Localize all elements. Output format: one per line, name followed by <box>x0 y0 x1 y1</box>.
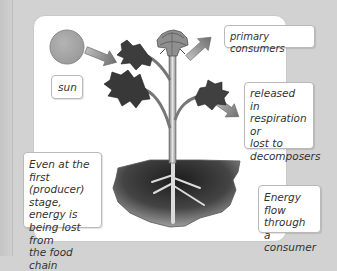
sun-label: sun <box>51 75 83 99</box>
even-line-1: Even at the first <box>29 158 96 183</box>
producer-energy-loss-label: Even at the first (producer) stage, ener… <box>23 152 102 228</box>
leaf-upper-left <box>117 40 152 70</box>
plant-stem <box>169 55 176 163</box>
arrow-sun-to-plant <box>83 43 120 70</box>
even-line-4: being lost from <box>29 221 96 246</box>
sun-icon <box>50 30 84 64</box>
released-line-3: lost to <box>250 137 308 150</box>
sun-label-text: sun <box>58 81 77 93</box>
released-line-2: respiration or <box>250 112 308 137</box>
even-line-3: stage, energy is <box>29 196 96 221</box>
arrow-to-primary-consumers <box>183 31 217 64</box>
leaf-lower-left <box>104 70 150 108</box>
primary-consumers-text: primary consumers <box>230 31 285 54</box>
even-line-5: the food chain <box>29 246 96 271</box>
side-stem-right <box>175 97 196 120</box>
soil-patch <box>113 160 240 227</box>
even-line-2: (producer) <box>29 183 96 196</box>
released-respiration-label: released in respiration or lost to decom… <box>244 82 314 149</box>
flow-line-2: through a <box>264 216 315 241</box>
flow-line-3: consumer <box>264 241 315 254</box>
flow-line-1: Energy flow <box>264 191 315 216</box>
released-line-4: decomposers <box>250 150 308 163</box>
energy-flow-caption: Energy flow through a consumer <box>258 185 321 233</box>
released-line-1: released in <box>250 87 308 112</box>
flower-icon <box>157 30 188 56</box>
primary-consumers-label: primary consumers <box>224 25 315 48</box>
